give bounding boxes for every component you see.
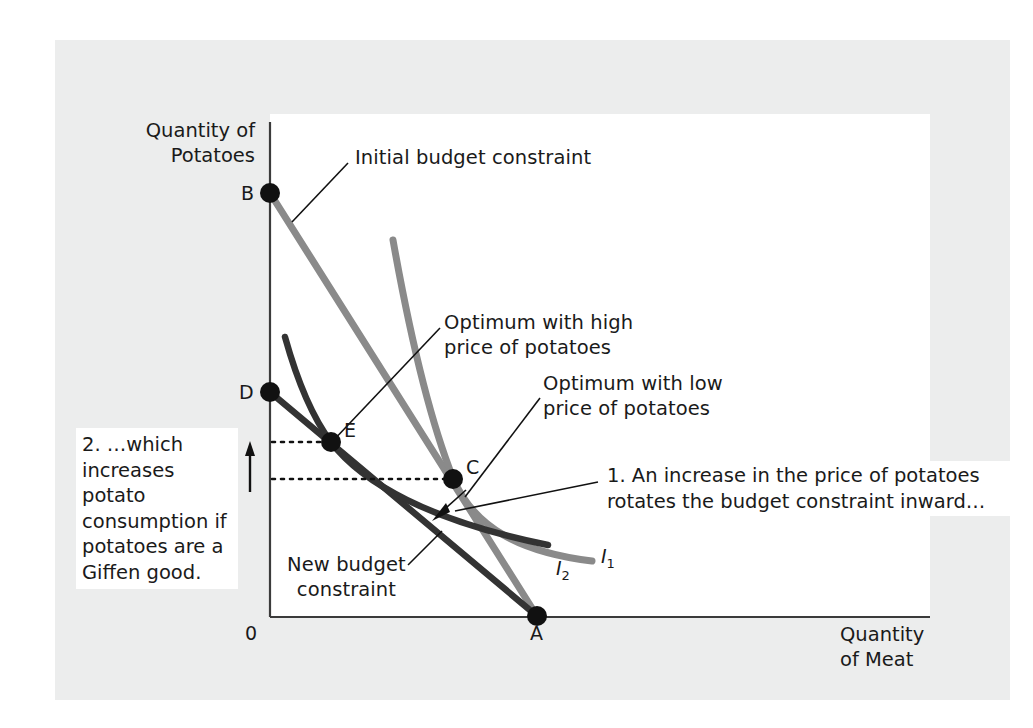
point-label-e: E (344, 419, 356, 441)
callout-note-1: 1. An increase in the price of potatoes … (603, 461, 1033, 516)
point-marker-c (443, 469, 463, 489)
point-marker-e (321, 432, 341, 452)
point-marker-b (260, 183, 280, 203)
point-label-b: B (241, 182, 254, 204)
leader-optimum-low (465, 398, 540, 497)
annotation-new-budget-constraint: New budget constraint (287, 552, 406, 602)
x-axis-label: Quantity of Meat (840, 622, 990, 672)
annotation-initial-budget-constraint: Initial budget constraint (355, 145, 591, 170)
point-marker-d (260, 382, 280, 402)
origin-label: 0 (245, 622, 257, 644)
curve-label-i2-sub: 2 (562, 568, 570, 583)
point-label-a: A (530, 622, 543, 644)
annotation-optimum-low-price: Optimum with low price of potatoes (543, 371, 723, 421)
curve-label-i2: I2 (556, 557, 570, 583)
curve-label-i1: I1 (601, 545, 615, 571)
annotation-optimum-high-price: Optimum with high price of potatoes (444, 310, 633, 360)
diagram-overlay (0, 0, 1033, 728)
leader-initial-budget (292, 163, 348, 222)
curve-label-i1-sub: 1 (607, 556, 615, 571)
potato-increase-arrow (245, 441, 255, 492)
y-axis-label: Quantity of Potatoes (100, 118, 255, 168)
point-label-d: D (239, 381, 254, 403)
leader-new-budget (408, 531, 442, 565)
point-label-c: C (466, 456, 479, 478)
callout-note-2: 2. …which increases potato consumption i… (76, 428, 238, 589)
giffen-good-figure: Quantity of Potatoes Quantity of Meat 0 … (0, 0, 1033, 728)
